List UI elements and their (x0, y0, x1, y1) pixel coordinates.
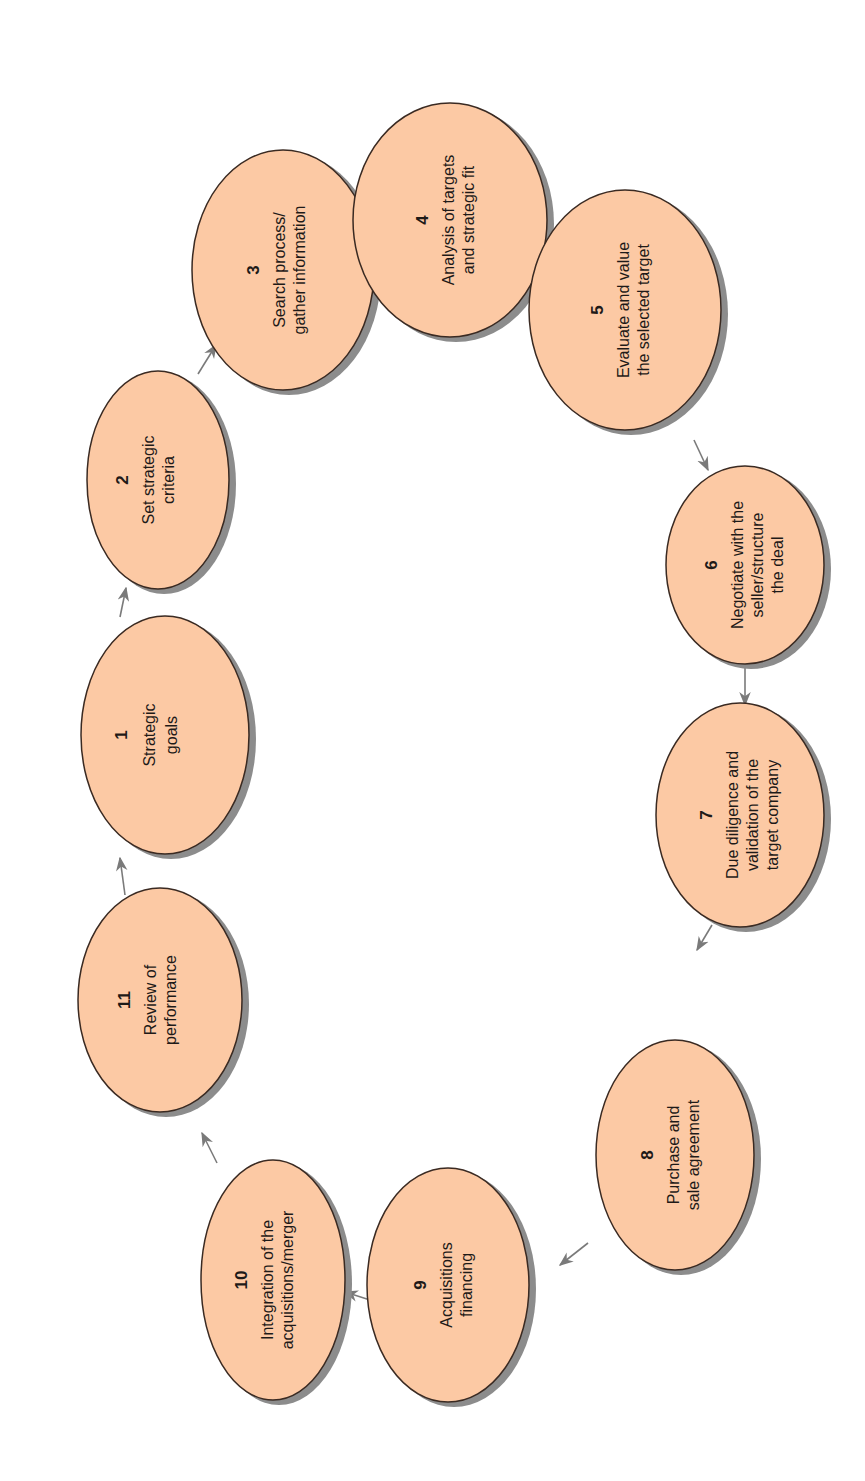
process-cycle-diagram: 1 Strategic goals 2 Set strategic criter… (0, 0, 865, 1481)
node-label: Analysis of targets (440, 155, 457, 286)
node-number: 7 (697, 810, 716, 819)
node-label: Acquisitions (438, 1242, 455, 1327)
node-number: 2 (113, 475, 132, 484)
edge-5-6 (694, 440, 708, 470)
node-number: 8 (638, 1150, 657, 1159)
node-7-due-diligence: 7 Due diligence and validation of the ta… (656, 703, 831, 932)
edge-11-1 (120, 858, 125, 895)
node-label: Search process/ (271, 212, 288, 328)
node-label: Strategic (141, 703, 158, 766)
node-label: target company (764, 760, 781, 870)
node-2-set-strategic-criteria: 2 Set strategic criteria (87, 371, 236, 594)
node-9-acquisitions-financing: 9 Acquisitions financing (367, 1168, 536, 1407)
node-number: 9 (411, 1280, 430, 1289)
node-number: 10 (232, 1271, 251, 1290)
node-label: acquisitions/merger (279, 1210, 296, 1349)
node-label: Integration of the (259, 1220, 276, 1340)
node-10-integration: 10 Integration of the acquisitions/merge… (201, 1160, 352, 1405)
node-label: the deal (769, 537, 786, 594)
node-label: financing (458, 1253, 475, 1317)
node-1-strategic-goals: 1 Strategic goals (81, 616, 256, 859)
node-label: Due diligence and (724, 751, 741, 879)
node-8-purchase-and-sale: 8 Purchase and sale agreement (596, 1040, 761, 1275)
node-6-negotiate: 6 Negotiate with the seller/structure th… (666, 466, 831, 669)
node-label: and strategic fit (460, 165, 477, 274)
node-label: Review of (142, 964, 159, 1035)
node-label: goals (163, 716, 180, 754)
edge-1-2 (120, 588, 126, 617)
node-label: sale agreement (685, 1099, 702, 1210)
edge-10-11 (202, 1133, 217, 1163)
edge-2-3 (198, 345, 216, 374)
node-number: 6 (702, 560, 721, 569)
edge-8-9 (560, 1243, 588, 1265)
node-number: 4 (413, 215, 432, 225)
node-label: the selected target (635, 244, 652, 376)
node-number: 3 (244, 265, 263, 274)
node-label: validation of the (744, 759, 761, 871)
node-number: 5 (588, 305, 607, 314)
node-4-analysis-of-targets: 4 Analysis of targets and strategic fit (353, 103, 554, 342)
node-number: 1 (112, 730, 131, 739)
node-label: criteria (160, 456, 177, 504)
edge-7-8 (697, 925, 712, 950)
node-label: Negotiate with the (729, 501, 746, 629)
node-3-search-process: 3 Search process/ gather information (192, 150, 381, 395)
node-11-review-of-performance: 11 Review of performance (78, 888, 249, 1117)
node-label: Set strategic (140, 436, 157, 525)
node-label: performance (162, 955, 179, 1045)
node-5-evaluate-and-value: 5 Evaluate and value the selected target (529, 190, 728, 435)
node-label: Purchase and (665, 1106, 682, 1205)
node-label: seller/structure (749, 512, 766, 617)
node-label: Evaluate and value (615, 242, 632, 378)
node-number: 11 (115, 991, 134, 1009)
node-label: gather information (291, 206, 308, 335)
